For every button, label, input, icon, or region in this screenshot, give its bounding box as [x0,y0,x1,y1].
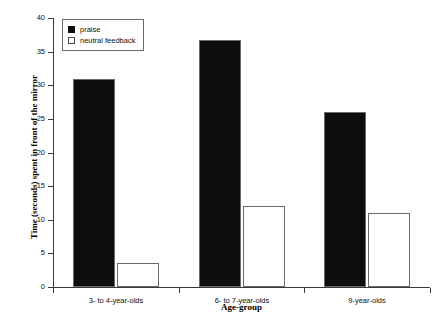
bar-praise [324,112,366,287]
chart-legend: praise neutral feedback [62,19,144,51]
y-tick-label: 35 [15,48,45,56]
filled-square-icon [68,26,75,33]
bar-praise [199,40,241,287]
legend-item-praise: praise [68,24,135,35]
y-axis-line [53,18,54,288]
legend-label-praise: praise [80,26,100,34]
y-tick-mark [48,119,53,120]
bar-neutral-feedback [368,213,410,287]
bar-chart: Time (seconds) spent in front of the mir… [0,0,439,325]
x-tick-mark [53,288,54,293]
y-axis-title: Time (seconds) spent in front of the mir… [29,37,39,277]
legend-item-neutral-feedback: neutral feedback [68,35,135,46]
x-tick-mark [430,288,431,293]
y-tick-mark [48,52,53,53]
y-tick-mark [48,85,53,86]
bar-neutral-feedback [243,206,285,287]
bar-praise [73,79,115,287]
y-tick-label: 20 [15,149,45,157]
y-tick-label: 0 [15,283,45,291]
y-tick-label: 25 [15,115,45,123]
legend-label-neutral-feedback: neutral feedback [80,37,135,45]
y-tick-mark [48,18,53,19]
y-tick-label: 5 [15,249,45,257]
x-tick-mark [304,288,305,293]
y-tick-mark [48,153,53,154]
y-tick-label: 10 [15,216,45,224]
x-tick-mark [179,288,180,293]
y-tick-mark [48,253,53,254]
bar-neutral-feedback [117,263,159,287]
y-tick-mark [48,186,53,187]
y-tick-label: 40 [15,14,45,22]
y-tick-mark [48,220,53,221]
x-axis-line [53,287,430,288]
open-square-icon [68,37,75,44]
x-axis-title: Age-group [53,302,430,312]
y-tick-label: 30 [15,81,45,89]
y-tick-label: 15 [15,182,45,190]
